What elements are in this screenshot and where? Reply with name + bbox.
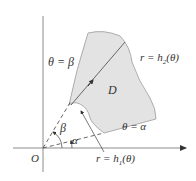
label-r-h2-main: r = h bbox=[140, 51, 163, 63]
ray-theta-beta bbox=[43, 101, 71, 148]
label-r-h1: r = h1(θ) bbox=[96, 153, 135, 167]
label-r-h2: r = h2(θ) bbox=[140, 52, 179, 66]
label-alpha: α bbox=[72, 135, 78, 146]
label-theta-alpha: θ = α bbox=[122, 121, 146, 132]
label-r-h2-arg: (θ) bbox=[166, 51, 179, 63]
label-theta-beta: θ = β bbox=[48, 56, 74, 68]
label-beta: β bbox=[60, 122, 66, 134]
label-region-d: D bbox=[108, 84, 117, 96]
label-r-h1-arg: (θ) bbox=[122, 152, 135, 164]
label-r-h1-main: r = h bbox=[96, 152, 119, 164]
label-origin: O bbox=[31, 153, 39, 164]
